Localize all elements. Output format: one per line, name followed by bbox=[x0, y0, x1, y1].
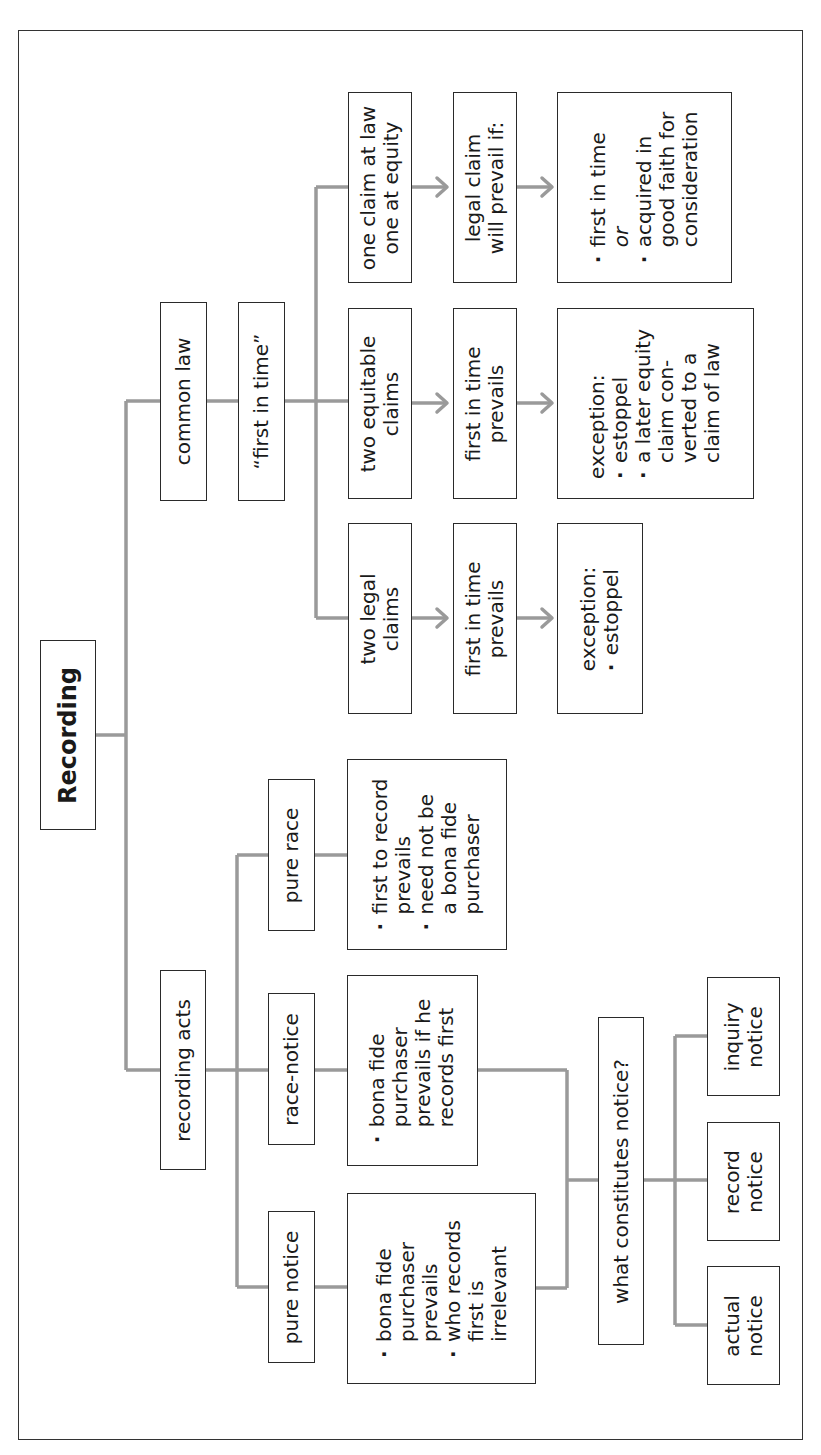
exception-item: a later equity bbox=[633, 328, 656, 478]
node-legal-claim-prevails-if: legal claim will prevail if: bbox=[453, 92, 517, 283]
condition-item: first in time bbox=[587, 112, 610, 264]
claim-line: one claim at law bbox=[357, 105, 380, 269]
or-separator: or bbox=[610, 112, 633, 264]
exception-item-cont: claim con- bbox=[656, 328, 679, 478]
recording-acts-label: recording acts bbox=[172, 999, 195, 1142]
exception-item-cont: verted to a bbox=[679, 328, 702, 478]
rule-item-cont: purchaser bbox=[390, 998, 413, 1143]
rule-item-cont: a bona fide bbox=[438, 779, 461, 931]
node-common-law: common law bbox=[160, 302, 207, 501]
node-actual-notice: actual notice bbox=[707, 1266, 780, 1385]
claim-line: two equitable bbox=[357, 335, 380, 472]
node-recording: Recording bbox=[40, 640, 96, 830]
exception-item-cont: claim of law bbox=[702, 328, 725, 478]
node-race-notice: race-notice bbox=[268, 993, 315, 1145]
node-first-in-time-prevails-legal: first in time prevails bbox=[453, 523, 517, 714]
notice-kind-line: inquiry bbox=[721, 1002, 744, 1071]
notice-kind-line: actual bbox=[721, 1295, 744, 1357]
node-pure-race: pure race bbox=[268, 779, 315, 931]
notice-kind-line: record bbox=[720, 1150, 743, 1214]
result-line: first in time bbox=[462, 346, 485, 461]
rule-item-cont: prevails bbox=[392, 779, 415, 931]
node-legal-exception: exception: estoppel bbox=[557, 523, 643, 714]
result-line: legal claim bbox=[462, 133, 485, 242]
node-one-claim-law-equity: one claim at law one at equity bbox=[348, 92, 412, 283]
act-type-label: pure notice bbox=[280, 1230, 303, 1343]
rule-item: first to record bbox=[369, 779, 392, 931]
rule-item: who records bbox=[442, 1220, 465, 1358]
diagram-title: Recording bbox=[57, 667, 80, 804]
condition-item-cont: consideration bbox=[679, 112, 702, 264]
rule-item-cont: purchaser bbox=[396, 1220, 419, 1358]
exception-heading: exception: bbox=[577, 566, 600, 670]
rule-item: bona fide bbox=[367, 998, 390, 1143]
node-pure-notice-rules: bona fide purchaser prevails who records… bbox=[347, 1193, 536, 1384]
condition-item-cont: good faith for bbox=[656, 112, 679, 264]
node-what-constitutes-notice: what constitutes notice? bbox=[598, 1017, 644, 1345]
act-type-label: pure race bbox=[280, 807, 303, 903]
act-type-label: race-notice bbox=[280, 1013, 303, 1126]
node-first-in-time: “first in time” bbox=[238, 302, 285, 501]
condition-item: acquired in bbox=[633, 112, 656, 264]
claim-line: two legal bbox=[357, 573, 380, 664]
common-law-label: common law bbox=[172, 338, 195, 466]
node-equitable-exception: exception: estoppel a later equity claim… bbox=[557, 308, 754, 499]
result-line: prevails bbox=[485, 579, 508, 657]
notice-kind-line: notice bbox=[744, 1006, 767, 1068]
node-two-legal-claims: two legal claims bbox=[348, 523, 412, 714]
node-recording-acts: recording acts bbox=[160, 970, 206, 1170]
rule-item-cont: purchaser bbox=[461, 779, 484, 931]
node-first-in-time-prevails-equitable: first in time prevails bbox=[453, 308, 517, 499]
result-line: prevails bbox=[485, 364, 508, 442]
exception-heading: exception: bbox=[587, 374, 610, 478]
first-in-time-label: “first in time” bbox=[250, 334, 273, 470]
node-inquiry-notice: inquiry notice bbox=[707, 977, 780, 1096]
node-legal-claim-conditions: first in time or acquired in good faith … bbox=[557, 92, 732, 283]
notice-kind-line: notice bbox=[744, 1295, 767, 1357]
result-line: first in time bbox=[462, 561, 485, 676]
node-pure-race-rules: first to record prevails need not be a b… bbox=[347, 759, 507, 950]
notice-question: what constitutes notice? bbox=[610, 1059, 633, 1304]
rule-item-cont: first is bbox=[465, 1220, 488, 1358]
rule-item-cont: prevails bbox=[419, 1220, 442, 1358]
result-line: will prevail if: bbox=[485, 121, 508, 253]
exception-item: estoppel bbox=[600, 569, 623, 671]
notice-kind-line: notice bbox=[743, 1151, 766, 1213]
rule-item-cont: records first bbox=[436, 998, 459, 1143]
exception-item: estoppel bbox=[610, 328, 633, 478]
claim-line: one at equity bbox=[380, 121, 403, 254]
rule-item-cont: irrelevant bbox=[488, 1220, 511, 1358]
claim-line: claims bbox=[380, 371, 403, 435]
rule-item: bona fide bbox=[373, 1220, 396, 1358]
claim-line: claims bbox=[380, 586, 403, 650]
node-two-equitable-claims: two equitable claims bbox=[348, 308, 412, 499]
rule-item-cont: prevails if he bbox=[413, 998, 436, 1143]
node-pure-notice: pure notice bbox=[268, 1211, 315, 1363]
node-record-notice: record notice bbox=[707, 1122, 780, 1241]
rule-item: need not be bbox=[415, 779, 438, 931]
node-race-notice-rules: bona fide purchaser prevails if he recor… bbox=[347, 975, 478, 1166]
